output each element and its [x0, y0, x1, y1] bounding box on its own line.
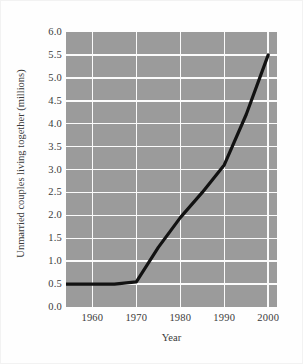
series-line-unmarried-couples — [66, 55, 268, 284]
x-axis-tick-labels: 19601970198019902000 — [66, 312, 277, 328]
y-axis-tick-label: 0.5 — [0, 279, 62, 290]
x-axis-title: Year — [66, 332, 277, 344]
y-axis-tick-label: 2.0 — [0, 210, 62, 221]
x-axis-tick-label: 1980 — [169, 312, 191, 324]
x-axis-tick-label: 2000 — [257, 312, 279, 324]
y-axis-tick-labels: 0.00.51.01.52.02.53.03.54.04.55.05.56.0 — [0, 32, 62, 307]
y-axis-title: Unmarried couples living together (milli… — [15, 48, 26, 280]
y-axis-tick-label: 4.5 — [0, 96, 62, 107]
y-axis-tick-label: 6.0 — [0, 27, 62, 38]
y-axis-tick-label: 1.0 — [0, 256, 62, 267]
x-axis-tick-label: 1990 — [213, 312, 235, 324]
y-axis-tick-label: 3.5 — [0, 142, 62, 153]
y-axis-tick-label: 3.0 — [0, 165, 62, 176]
y-axis-tick-label: 0.0 — [0, 302, 62, 313]
plot-area — [66, 32, 277, 307]
x-axis-tick-label: 1960 — [81, 312, 103, 324]
y-axis-tick-label: 5.5 — [0, 50, 62, 61]
y-axis-tick-label: 2.5 — [0, 187, 62, 198]
y-axis-tick-label: 1.5 — [0, 233, 62, 244]
series-line-chart — [66, 32, 277, 307]
x-axis-tick-label: 1970 — [125, 312, 147, 324]
y-axis-tick-label: 4.0 — [0, 119, 62, 130]
y-axis-tick-label: 5.0 — [0, 73, 62, 84]
chart-figure: 0.00.51.01.52.02.53.03.54.04.55.05.56.0 … — [0, 0, 303, 364]
